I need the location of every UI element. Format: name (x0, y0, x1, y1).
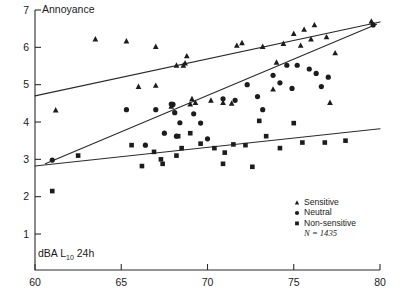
data-point-square (231, 142, 236, 147)
data-point-circle (205, 136, 210, 141)
data-point-circle (169, 101, 174, 106)
legend-label: Sensitive (304, 197, 339, 207)
data-point-triangle (301, 26, 307, 31)
data-point-triangle (332, 50, 338, 55)
data-point-square (221, 162, 226, 167)
regression-line (35, 22, 380, 96)
data-point-square (179, 146, 184, 151)
data-point-square (343, 138, 348, 143)
regression-lines-group (35, 22, 380, 166)
data-point-circle (371, 22, 376, 27)
data-point-square (257, 119, 262, 124)
data-point-circle (172, 110, 177, 115)
data-point-square (129, 143, 134, 148)
data-point-triangle (208, 97, 214, 102)
data-point-circle (153, 107, 158, 112)
x-tick-label: 60 (29, 276, 41, 288)
data-point-circle (260, 107, 265, 112)
data-point-circle (270, 73, 275, 78)
data-point-circle (245, 82, 250, 87)
data-point-triangle (53, 107, 59, 112)
data-point-circle (50, 157, 55, 162)
data-point-square (300, 140, 305, 145)
data-point-triangle (153, 82, 159, 87)
sample-size-text: N = 1435 (303, 228, 338, 238)
data-point-square (323, 140, 328, 145)
data-point-square (140, 164, 145, 169)
data-point-circle (162, 131, 167, 136)
x-tick-label: 70 (202, 276, 214, 288)
y-tick-label: 1 (23, 228, 29, 240)
plot-area: 12345676065707580 Annoyance dBA L10 24h … (0, 0, 400, 296)
legend-marker-square (295, 222, 299, 226)
data-point-circle (307, 66, 312, 71)
data-point-circle (143, 143, 148, 148)
legend: SensitiveNeutralNon-sensitiveN = 1435 (295, 197, 356, 238)
data-point-triangle (291, 31, 297, 36)
data-point-triangle (327, 100, 333, 105)
data-point-square (222, 150, 227, 155)
data-point-square (160, 162, 165, 167)
data-point-square (50, 189, 55, 194)
y-tick-label: 6 (23, 41, 29, 53)
legend-label: Non-sensitive (304, 218, 356, 228)
data-point-circle (255, 94, 260, 99)
data-point-circle (314, 71, 319, 76)
data-point-triangle (124, 38, 130, 43)
data-point-triangle (136, 84, 142, 89)
data-point-triangle (324, 34, 330, 39)
data-point-square (212, 146, 217, 151)
y-axis-title: Annoyance (42, 3, 95, 15)
annoyance-scatter-chart: 12345676065707580 Annoyance dBA L10 24h … (0, 0, 400, 296)
data-point-circle (289, 86, 294, 91)
data-point-circle (220, 96, 225, 101)
legend-item-sensitive: Sensitive (295, 197, 339, 207)
data-point-square (264, 134, 269, 139)
data-point-triangle (153, 44, 159, 49)
legend-marker-triangle (295, 200, 299, 204)
data-point-triangle (312, 22, 318, 27)
data-point-triangle (184, 53, 190, 58)
data-point-circle (198, 121, 203, 126)
data-point-square (174, 153, 179, 158)
data-point-square (188, 131, 193, 136)
data-point-circle (277, 80, 282, 85)
series-non-sensitive (50, 119, 348, 194)
regression-line (35, 129, 380, 166)
y-tick-label: 2 (23, 190, 29, 202)
x-tick-label: 75 (288, 276, 300, 288)
legend-label: Neutral (304, 207, 332, 217)
data-point-circle (233, 98, 238, 103)
data-point-circle (124, 107, 129, 112)
y-tick-label: 7 (23, 4, 29, 16)
data-point-triangle (298, 42, 304, 47)
data-point-square (291, 121, 296, 126)
data-point-triangle (239, 40, 245, 45)
data-point-triangle (189, 96, 195, 101)
y-tick-label: 3 (23, 153, 29, 165)
x-tick-label: 65 (115, 276, 127, 288)
data-point-square (152, 150, 157, 155)
data-point-square (198, 141, 203, 146)
tick-label-group: 12345676065707580 (23, 4, 386, 288)
data-point-triangle (274, 59, 280, 64)
data-point-circle (177, 120, 182, 125)
data-point-triangle (93, 36, 99, 41)
legend-sample-size: N = 1435 (303, 228, 338, 238)
data-point-circle (284, 63, 289, 68)
legend-marker-circle (295, 211, 299, 215)
y-tick-label: 4 (23, 116, 29, 128)
data-point-square (250, 165, 255, 170)
data-point-circle (319, 84, 324, 89)
data-points-group (50, 18, 376, 193)
data-point-circle (326, 75, 331, 80)
data-point-circle (295, 63, 300, 68)
data-point-circle (191, 111, 196, 116)
legend-item-non-sensitive: Non-sensitive (295, 218, 356, 228)
y-tick-label: 5 (23, 78, 29, 90)
data-point-square (278, 146, 283, 151)
data-point-square (159, 157, 164, 162)
data-point-square (76, 153, 81, 158)
x-tick-label: 80 (374, 276, 386, 288)
data-point-square (176, 134, 181, 139)
